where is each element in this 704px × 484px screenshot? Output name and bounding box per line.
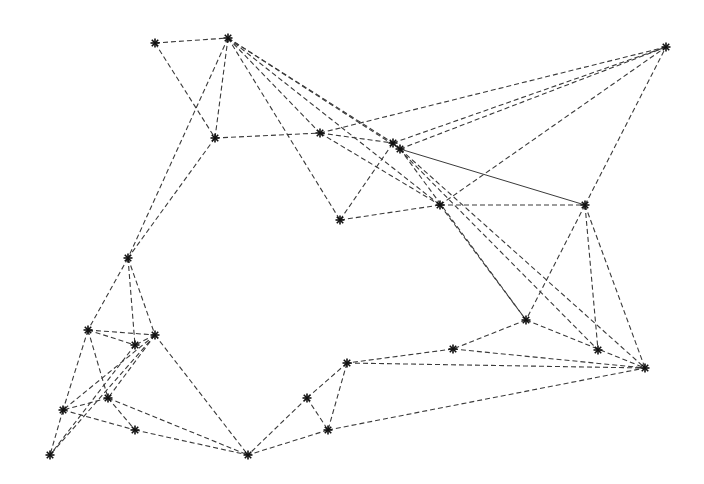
node-L-asterisk-icon [84, 326, 93, 335]
edge-G-J [400, 149, 585, 205]
edge-L-V [63, 330, 88, 410]
node-N-asterisk-icon [151, 331, 160, 340]
node-M-asterisk-icon [131, 341, 140, 350]
node-V-asterisk-icon [59, 406, 68, 415]
node-Y-asterisk-icon [244, 451, 253, 460]
node-W-asterisk-icon [324, 426, 333, 435]
node-X-asterisk-icon [131, 426, 140, 435]
edge-B-E [228, 38, 320, 133]
edge-A-B [155, 38, 228, 43]
edge-P-S [347, 349, 453, 363]
edge-L-N [88, 330, 155, 335]
edge-K-L [88, 258, 128, 330]
node-B-asterisk-icon [224, 34, 233, 43]
node-G-asterisk-icon [396, 145, 405, 154]
edge-W-R [328, 368, 645, 430]
edge-M-Z [50, 345, 135, 455]
edge-D-K [128, 138, 215, 258]
node-F-asterisk-icon [389, 139, 398, 148]
edge-B-K [128, 38, 228, 258]
edge-B-I [228, 38, 440, 205]
node-R-asterisk-icon [641, 364, 650, 373]
edge-O-P [453, 320, 526, 349]
edge-L-M [88, 330, 135, 345]
edge-F-Q [393, 143, 598, 350]
node-S-asterisk-icon [343, 359, 352, 368]
edge-G-O [400, 149, 526, 320]
edge-J-R [585, 205, 645, 368]
edge-B-F [228, 38, 393, 143]
node-K-asterisk-icon [124, 254, 133, 263]
edge-A-D [155, 43, 215, 138]
node-H-asterisk-icon [336, 216, 345, 225]
edge-G-R [400, 149, 645, 368]
edge-T-W [307, 398, 328, 430]
edge-W-Y [248, 430, 328, 455]
edge-layer [50, 38, 666, 455]
edge-P-R [453, 349, 645, 368]
edge-E-I [320, 133, 440, 205]
edge-H-I [340, 205, 440, 220]
node-T-asterisk-icon [303, 394, 312, 403]
edge-T-Y [248, 398, 307, 455]
node-I-asterisk-icon [436, 201, 445, 210]
node-P-asterisk-icon [449, 345, 458, 354]
node-Q-asterisk-icon [594, 346, 603, 355]
edge-B-G [228, 38, 400, 149]
node-E-asterisk-icon [316, 129, 325, 138]
node-A-asterisk-icon [151, 39, 160, 48]
node-Z-asterisk-icon [46, 451, 55, 460]
node-layer [46, 34, 671, 460]
edge-E-C [320, 47, 666, 133]
edge-J-O [526, 205, 585, 320]
edge-G-C [400, 47, 666, 149]
edge-N-M [135, 335, 155, 345]
edge-K-M [128, 258, 135, 345]
edge-N-Z [50, 335, 155, 455]
edge-V-Z [50, 410, 63, 455]
edge-I-C [440, 47, 666, 205]
edge-D-E [215, 133, 320, 138]
edge-U-Y [108, 398, 248, 455]
edge-H-F [340, 143, 393, 220]
node-O-asterisk-icon [522, 316, 531, 325]
node-U-asterisk-icon [104, 394, 113, 403]
edge-O-R [526, 320, 645, 368]
edge-S-W [328, 363, 347, 430]
edge-U-X [108, 398, 135, 430]
edge-E-F [320, 133, 393, 143]
edge-K-N [128, 258, 155, 335]
edge-F-C [393, 47, 666, 143]
node-C-asterisk-icon [662, 43, 671, 52]
network-graph [0, 0, 704, 484]
edge-S-T [307, 363, 347, 398]
edge-B-H [228, 38, 340, 220]
edge-J-Q [585, 205, 598, 350]
node-J-asterisk-icon [581, 201, 590, 210]
node-D-asterisk-icon [211, 134, 220, 143]
